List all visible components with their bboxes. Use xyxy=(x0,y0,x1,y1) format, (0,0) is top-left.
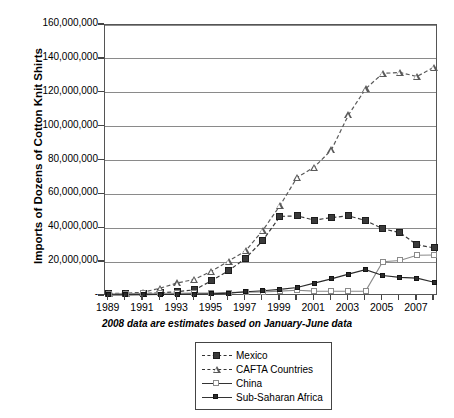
data-point-mexico xyxy=(225,267,232,274)
gridline xyxy=(105,262,436,263)
x-axis-tick-mark xyxy=(176,295,177,300)
data-point-sub-saharan-africa xyxy=(346,272,351,277)
x-axis-tick-mark xyxy=(244,295,245,300)
data-point-cafta-countries xyxy=(430,64,438,71)
x-axis-tick-label: 2007 xyxy=(396,301,436,313)
y-axis-tick-label: 60,000,000 xyxy=(2,186,98,197)
data-point-china xyxy=(431,252,437,258)
data-point-cafta-countries xyxy=(344,111,352,118)
gridline xyxy=(105,25,436,26)
data-point-sub-saharan-africa xyxy=(380,273,385,278)
legend-item-label: Sub-Saharan Africa xyxy=(236,392,323,403)
x-axis-tick-mark xyxy=(330,295,331,300)
gridline xyxy=(105,58,436,59)
data-point-mexico xyxy=(396,229,403,236)
legend-item-label: Mexico xyxy=(236,350,268,361)
data-point-sub-saharan-africa xyxy=(243,289,248,294)
legend-item-cafta-countries[interactable]: CAFTA Countries xyxy=(202,362,323,376)
legend-item-label: China xyxy=(236,378,262,389)
x-axis-tick-mark xyxy=(313,295,314,300)
x-axis-tick-mark xyxy=(278,295,279,300)
data-point-mexico xyxy=(242,255,249,262)
legend-key-icon xyxy=(202,377,232,389)
data-point-sub-saharan-africa xyxy=(295,285,300,290)
data-point-cafta-countries xyxy=(362,85,370,92)
chart-legend: MexicoCAFTA CountriesChinaSub-Saharan Af… xyxy=(195,342,332,410)
gridline xyxy=(105,92,436,93)
legend-item-label: CAFTA Countries xyxy=(236,364,313,375)
y-axis-tick-label: 80,000,000 xyxy=(2,153,98,164)
legend-key-icon xyxy=(202,349,232,361)
data-point-mexico xyxy=(362,217,369,224)
legend-key-icon xyxy=(202,363,232,375)
data-point-cafta-countries xyxy=(293,174,301,181)
x-axis-tick-mark xyxy=(432,295,433,300)
plot-area xyxy=(104,24,437,295)
x-axis-tick-mark xyxy=(261,295,262,300)
data-point-china xyxy=(345,288,351,294)
data-point-cafta-countries xyxy=(379,70,387,77)
data-point-cafta-countries xyxy=(259,227,267,234)
data-point-china xyxy=(397,257,403,263)
y-axis-tick-label: 160,000,000 xyxy=(2,17,98,28)
data-point-mexico xyxy=(345,212,352,219)
legend-item-mexico[interactable]: Mexico xyxy=(202,348,323,362)
data-point-china xyxy=(380,259,386,265)
x-axis-tick-mark xyxy=(295,295,296,300)
data-point-sub-saharan-africa xyxy=(414,276,419,281)
data-point-cafta-countries xyxy=(413,73,421,80)
legend-item-sub-saharan-africa[interactable]: Sub-Saharan Africa xyxy=(202,390,323,404)
data-point-mexico xyxy=(311,217,318,224)
data-point-china xyxy=(363,288,369,294)
data-point-sub-saharan-africa xyxy=(312,281,317,286)
x-axis-tick-mark xyxy=(210,295,211,300)
data-point-mexico xyxy=(259,237,266,244)
data-point-cafta-countries xyxy=(225,258,233,265)
x-axis-tick-mark xyxy=(364,295,365,300)
data-point-cafta-countries xyxy=(327,146,335,153)
legend-item-china[interactable]: China xyxy=(202,376,323,390)
data-point-mexico xyxy=(328,214,335,221)
data-point-mexico xyxy=(413,241,420,248)
data-point-sub-saharan-africa xyxy=(277,287,282,292)
x-axis-tick-mark xyxy=(381,295,382,300)
y-axis-tick-label: 100,000,000 xyxy=(2,119,98,130)
y-axis-tick-label: 40,000,000 xyxy=(2,220,98,231)
data-point-mexico xyxy=(431,244,438,251)
x-axis-tick-mark xyxy=(141,295,142,300)
data-point-sub-saharan-africa xyxy=(432,280,437,285)
data-point-mexico xyxy=(276,213,283,220)
x-axis-tick-mark xyxy=(415,295,416,300)
x-axis-tick-mark xyxy=(159,295,160,300)
x-axis-caption: 2008 data are estimates based on January… xyxy=(0,318,454,329)
gridline xyxy=(105,160,436,161)
y-axis-tick-label: 20,000,000 xyxy=(2,254,98,265)
chart-container: Imports of Dozens of Cotton Knit Shirts … xyxy=(0,0,454,418)
data-point-sub-saharan-africa xyxy=(397,275,402,280)
x-axis-tick-mark xyxy=(107,295,108,300)
data-point-sub-saharan-africa xyxy=(329,276,334,281)
data-point-sub-saharan-africa xyxy=(260,288,265,293)
x-axis-tick-mark xyxy=(398,295,399,300)
data-point-cafta-countries xyxy=(396,69,404,76)
data-point-cafta-countries xyxy=(207,268,215,275)
gridline xyxy=(105,228,436,229)
data-point-mexico xyxy=(208,277,215,284)
data-point-cafta-countries xyxy=(276,202,284,209)
data-point-mexico xyxy=(379,225,386,232)
gridline xyxy=(105,194,436,195)
x-axis-tick-mark xyxy=(193,295,194,300)
data-point-china xyxy=(328,288,334,294)
x-axis-tick-mark xyxy=(347,295,348,300)
data-point-china xyxy=(311,288,317,294)
y-axis-tick-label: 120,000,000 xyxy=(2,85,98,96)
x-axis-tick-mark xyxy=(124,295,125,300)
y-axis-tick-label: - xyxy=(2,288,98,299)
legend-key-icon xyxy=(202,391,232,403)
gridline xyxy=(105,126,436,127)
data-point-mexico xyxy=(294,212,301,219)
data-point-sub-saharan-africa xyxy=(363,267,368,272)
data-point-cafta-countries xyxy=(190,276,198,283)
data-point-cafta-countries xyxy=(310,164,318,171)
y-axis-tick-label: 140,000,000 xyxy=(2,51,98,62)
